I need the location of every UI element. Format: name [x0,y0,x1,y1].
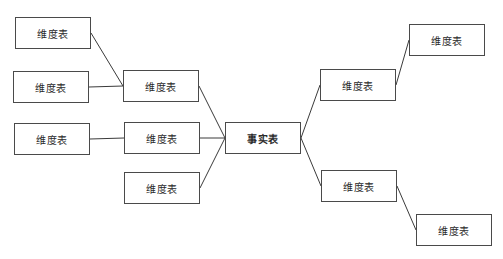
connector-r1-rr1 [396,40,409,85]
node-label: 维度表 [145,79,177,94]
dimension-table-node: 维度表 [14,123,90,155]
dimension-table-node: 维度表 [409,24,485,56]
node-label: 维度表 [431,33,463,48]
node-label: 维度表 [343,179,375,194]
connector-m1-f [199,86,225,138]
star-schema-diagram: 维度表 维度表 维度表 维度表 维度表 维度表 事实表 维度表 维度表 维度表 … [0,0,503,259]
dimension-table-node: 维度表 [321,170,397,202]
connector-m3-f [200,138,225,188]
connector-f-r1 [301,85,320,138]
dimension-table-node: 维度表 [124,122,200,154]
dimension-table-node: 维度表 [416,214,492,246]
connector-l1-m1 [91,33,123,86]
dimension-table-node: 维度表 [320,69,396,101]
node-label: 维度表 [146,131,178,146]
connector-f-r2 [301,138,321,186]
node-label: 维度表 [342,78,374,93]
node-label: 维度表 [37,26,69,41]
connector-r2-rr2 [397,186,416,230]
dimension-table-node: 维度表 [13,71,89,103]
node-label: 维度表 [438,223,470,238]
node-label: 事实表 [247,131,279,146]
dimension-table-node: 维度表 [15,17,91,49]
fact-table-node: 事实表 [225,122,301,154]
node-label: 维度表 [146,181,178,196]
dimension-table-node: 维度表 [124,172,200,204]
dimension-table-node: 维度表 [123,70,199,102]
node-label: 维度表 [36,132,68,147]
node-label: 维度表 [35,80,67,95]
connector-l3-m2 [90,138,124,139]
connector-l2-m1 [89,86,123,87]
